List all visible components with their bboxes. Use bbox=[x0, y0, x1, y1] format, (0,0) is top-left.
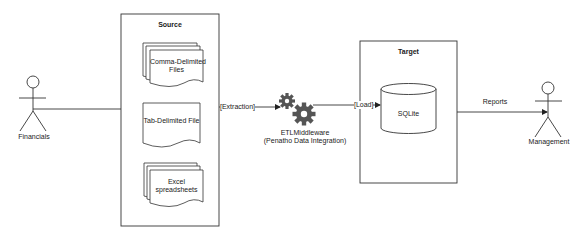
gears-icon[interactable] bbox=[279, 93, 316, 126]
extraction-label: [Extraction] bbox=[220, 103, 255, 111]
target-title: Target bbox=[360, 48, 457, 56]
tab-delimited-label: Tab-Delimited File bbox=[143, 117, 200, 125]
source-title: Source bbox=[121, 21, 219, 29]
reports-label: Reports bbox=[470, 98, 520, 106]
sqlite-label: SQLite bbox=[381, 110, 436, 118]
excel-label-2: spreadsheets bbox=[150, 186, 203, 194]
load-label: [Load] bbox=[354, 101, 373, 109]
diagram-shapes bbox=[0, 0, 580, 237]
financials-label: Financials bbox=[14, 133, 54, 141]
middleware-label-2: (Penatho Data Integration) bbox=[240, 137, 370, 145]
middleware-label-1: ETLMiddleware bbox=[240, 129, 370, 137]
tab-delimited-file-icon[interactable] bbox=[143, 103, 200, 147]
financials-actor-icon[interactable] bbox=[19, 76, 46, 131]
sqlite-database-icon[interactable] bbox=[381, 84, 436, 134]
comma-delimited-label-2: Files bbox=[150, 66, 203, 74]
management-actor-icon[interactable] bbox=[535, 82, 562, 137]
excel-label-1: Excel bbox=[150, 178, 203, 186]
management-label: Management bbox=[526, 138, 572, 146]
etl-diagram: Financials Source Comma-Delimited Files … bbox=[0, 0, 580, 237]
comma-delimited-label-1: Comma-Delimited bbox=[150, 58, 203, 66]
